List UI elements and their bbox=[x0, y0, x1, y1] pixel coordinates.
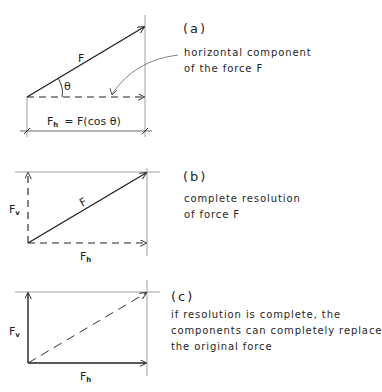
vertical-subscript: v bbox=[15, 331, 20, 339]
panel-a-description-line-2: of the force F bbox=[184, 64, 263, 74]
panel-a-tag: (a) bbox=[183, 22, 207, 35]
equation-subscript: h bbox=[53, 121, 58, 129]
angle-arc bbox=[58, 78, 63, 97]
panel-b-horizontal-label: Fh bbox=[80, 251, 91, 264]
original-force-dashed bbox=[28, 293, 146, 363]
force-f-vector bbox=[27, 27, 144, 97]
panel-a-force-label: F bbox=[78, 53, 84, 64]
panel-b-description-line-2: of force F bbox=[184, 210, 240, 220]
panel-b-description-line-1: complete resolution bbox=[184, 194, 301, 204]
panel-b-vertical-label: Fv bbox=[9, 204, 20, 217]
equation-rhs: = F(cos θ) bbox=[64, 115, 120, 128]
force-f-vector bbox=[28, 173, 146, 243]
panel-a-description-line-1: horizontal component bbox=[184, 48, 312, 58]
panel-c-description-line-3: the original force bbox=[171, 342, 273, 352]
panel-c-description-line-1: if resolution is complete, the bbox=[171, 310, 341, 320]
panel-c-description-line-2: components can completely replace bbox=[171, 326, 382, 336]
panel-a-angle-label: θ bbox=[64, 81, 71, 92]
vertical-subscript: v bbox=[15, 209, 20, 217]
horizontal-subscript: h bbox=[86, 376, 91, 384]
horizontal-subscript: h bbox=[86, 256, 91, 264]
panel-c-diagram bbox=[15, 280, 160, 376]
panel-b-tag: (b) bbox=[183, 170, 207, 183]
panel-b-diagram bbox=[15, 168, 160, 256]
panel-c-vertical-label: Fv bbox=[9, 326, 20, 339]
panel-a-equation: Fh= F(cos θ) bbox=[47, 116, 121, 129]
panel-c-tag: (c) bbox=[171, 290, 194, 303]
panel-c-horizontal-label: Fh bbox=[80, 371, 91, 384]
